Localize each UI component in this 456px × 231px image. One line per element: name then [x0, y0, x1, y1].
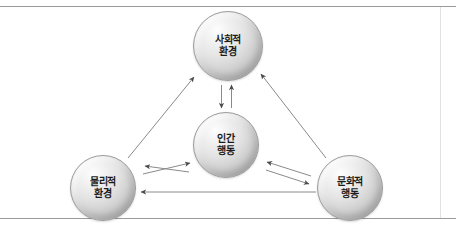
edge-human-to-physical — [145, 166, 189, 172]
node-social-environment-label-line1: 사회적 — [215, 34, 241, 47]
node-physical-environment[interactable]: 물리적 환경 — [70, 155, 136, 221]
node-physical-environment-label-line1: 물리적 — [90, 176, 116, 189]
edge-cultural-to-social — [261, 74, 326, 158]
node-human-behavior[interactable]: 인간 행동 — [193, 112, 259, 178]
edge-cultural-to-human — [267, 162, 311, 176]
node-human-behavior-label-line2: 행동 — [217, 145, 235, 158]
diagram-figure: 사회적 환경 인간 행동 물리적 환경 문화적 행동 — [0, 0, 456, 231]
edge-human-to-cultural — [266, 170, 309, 184]
node-social-environment-label-line2: 환경 — [219, 46, 237, 59]
node-social-environment[interactable]: 사회적 환경 — [193, 11, 263, 81]
node-cultural-behavior[interactable]: 문화적 행동 — [317, 155, 383, 221]
node-physical-environment-label-line2: 환경 — [94, 188, 112, 201]
node-cultural-behavior-label-line2: 행동 — [341, 188, 359, 201]
node-human-behavior-label-line1: 인간 — [217, 133, 235, 146]
edge-physical-to-social — [128, 77, 194, 158]
node-cultural-behavior-label-line1: 문화적 — [337, 176, 363, 189]
